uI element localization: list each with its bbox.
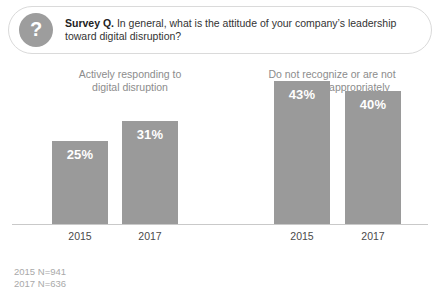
bar-notrecognize-2017[interactable]: 40% xyxy=(345,91,401,224)
bar-value-label: 40% xyxy=(345,97,401,112)
survey-question-body: In general, what is the attitude of your… xyxy=(65,17,396,43)
bar-notrecognize-2015[interactable]: 43% xyxy=(274,81,330,224)
bar-chart: Actively responding to digital disruptio… xyxy=(0,58,440,263)
xaxis-label-notrecognize-2017: 2017 xyxy=(345,230,401,242)
bar-actively-2017[interactable]: 31% xyxy=(122,121,178,224)
survey-question-card: ? Survey Q. In general, what is the atti… xyxy=(8,6,432,54)
bar-value-label: 25% xyxy=(52,147,108,162)
sample-size-footnote: 2015 N=941 2017 N=636 xyxy=(14,266,66,290)
xaxis-label-actively-2015: 2015 xyxy=(52,230,108,242)
chart-baseline xyxy=(12,224,428,225)
bar-value-label: 31% xyxy=(122,127,178,142)
sample-size-2017: 2017 N=636 xyxy=(14,278,66,290)
survey-question-text: Survey Q. In general, what is the attitu… xyxy=(65,17,417,44)
xaxis-label-actively-2017: 2017 xyxy=(122,230,178,242)
survey-chart-card: ? Survey Q. In general, what is the atti… xyxy=(0,0,440,302)
sample-size-2015: 2015 N=941 xyxy=(14,266,66,278)
bar-actively-2015[interactable]: 25% xyxy=(52,141,108,224)
xaxis-label-notrecognize-2015: 2015 xyxy=(274,230,330,242)
bars-container: 25% 31% 43% 40% xyxy=(0,58,440,224)
bar-value-label: 43% xyxy=(274,87,330,102)
question-mark-icon: ? xyxy=(19,13,53,47)
survey-question-label: Survey Q. xyxy=(65,17,114,29)
